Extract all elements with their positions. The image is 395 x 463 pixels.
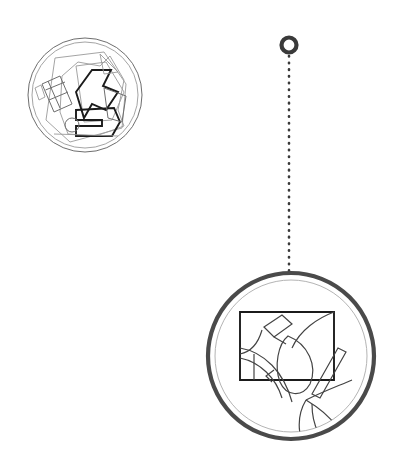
overview-ladder-bar	[42, 76, 72, 112]
overview-drawing[interactable]	[28, 38, 142, 152]
overview-right-wedge	[104, 88, 126, 122]
overview-folded-arm	[76, 70, 118, 118]
detail-angled-tab	[264, 315, 292, 337]
scene-svg	[0, 0, 395, 463]
detail-branch-right	[306, 400, 336, 426]
detail-leaf-form	[277, 336, 313, 394]
detail-drawing[interactable]	[208, 273, 374, 439]
detail-sweep-arc-inner	[240, 358, 282, 398]
detail-outer-ring	[208, 273, 374, 439]
detail-field-arc	[222, 392, 312, 435]
detail-branch-stem	[299, 400, 306, 434]
detail-sweep-arc	[240, 348, 292, 402]
overview-ladder-rung-a	[46, 82, 66, 90]
callout-marker-ring	[282, 38, 297, 53]
detail-contents	[222, 312, 352, 435]
overview-ladder-frame	[42, 76, 72, 112]
drawing-canvas	[0, 0, 395, 463]
magnifier-callout-group	[282, 38, 297, 273]
overview-ladder-rung-b	[49, 92, 68, 100]
detail-slant-bar	[312, 348, 346, 398]
overview-contents	[35, 52, 126, 142]
overview-circle-detail	[65, 118, 79, 132]
